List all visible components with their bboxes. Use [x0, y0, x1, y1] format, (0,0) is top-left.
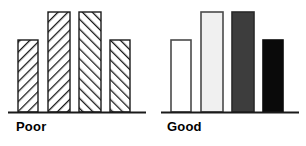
panel-label-good: Good	[167, 119, 202, 135]
poor-bar-chart-svg	[0, 0, 153, 116]
bar-poor-4	[110, 40, 130, 112]
panel-label-poor: Poor	[16, 119, 46, 135]
chart-comparison-figure: Poor Good	[0, 0, 306, 146]
panel-poor: Poor	[0, 0, 153, 146]
good-bar-chart-svg	[153, 0, 306, 116]
bar-poor-1	[18, 40, 38, 112]
panel-good: Good	[153, 0, 306, 146]
good-chart-plot	[153, 0, 306, 116]
bar-good-3	[232, 12, 254, 112]
bar-good-2	[201, 12, 223, 112]
poor-chart-plot	[0, 0, 153, 116]
bar-good-4	[263, 40, 283, 112]
bar-poor-2	[48, 12, 70, 112]
bar-good-1	[171, 40, 191, 112]
good-bars	[171, 12, 283, 112]
poor-bars	[18, 12, 130, 112]
bar-poor-3	[79, 12, 101, 112]
